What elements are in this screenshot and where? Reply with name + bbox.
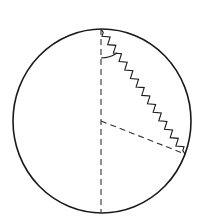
spring bbox=[101, 29, 185, 154]
angle-arc bbox=[101, 53, 117, 58]
spring-in-ring-diagram bbox=[0, 0, 211, 222]
